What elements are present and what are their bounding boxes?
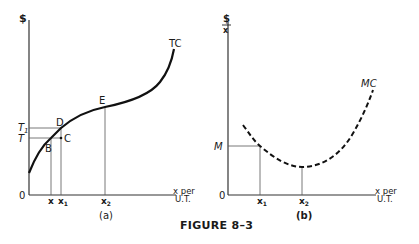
x-tick-x1: x1 <box>257 196 267 207</box>
x-axis-label-line2: U.T. <box>377 194 393 204</box>
origin-label: 0 <box>19 190 25 201</box>
panel-a-label: (a) <box>99 210 113 221</box>
y-tick-M: M <box>214 141 223 152</box>
tc-label: TC <box>168 38 182 49</box>
panel-b: $ x 0 M MC x1 x2 x per U.T. (b) <box>214 13 397 221</box>
figure-caption: FIGURE 8–3 <box>180 219 253 232</box>
x-tick-x: x <box>48 196 54 206</box>
point-c-dot <box>60 137 63 140</box>
point-E-label: E <box>99 95 105 106</box>
mc-curve <box>243 90 373 167</box>
point-B-label: B <box>45 143 52 154</box>
point-D-label: D <box>56 117 64 128</box>
x-tick-x2: x2 <box>101 196 111 207</box>
y-axis-label: $ <box>19 12 27 25</box>
origin-label: 0 <box>219 190 225 201</box>
y-axis-label-numerator: $ <box>223 13 230 24</box>
x-tick-x1: x1 <box>58 196 68 207</box>
y-axis-label-denominator: x <box>223 26 229 35</box>
x-axis-label-line2: U.T. <box>175 194 191 204</box>
point-C-label: C <box>64 133 71 144</box>
x-tick-x2: x2 <box>299 196 309 207</box>
mc-label: MC <box>361 78 377 89</box>
panel-b-label: (b) <box>296 210 312 221</box>
figure-canvas: $ 0 TC T1 T D C B E x x1 x2 x per U.T. (… <box>0 0 419 244</box>
y-tick-T: T <box>18 133 25 144</box>
panel-a: $ 0 TC T1 T D C B E x x1 x2 x per U.T. (… <box>18 12 195 221</box>
